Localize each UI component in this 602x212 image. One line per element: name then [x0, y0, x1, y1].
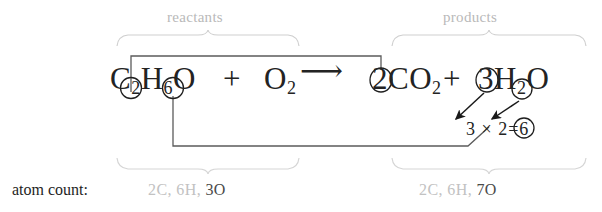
products-brace [392, 30, 586, 46]
oxygen-subscript: 2 [287, 78, 297, 98]
atom-count-products: 2C, 6H, 7O [419, 181, 497, 199]
product-water: 3H2O [478, 61, 549, 99]
annotation-overlay [0, 0, 602, 212]
h2o-subscript: 2 [517, 78, 527, 98]
plus-sign-reactants: + [223, 61, 241, 97]
products-carbon-count: 2C, [419, 181, 443, 198]
math-equals-symbol: = [508, 119, 519, 139]
ethanol-c: C [110, 61, 131, 96]
ethanol-h-subscript: 6 [164, 78, 174, 98]
hydrogen-math-expression: 3 × 2=6 [466, 119, 529, 140]
ethanol-c-subscript: 2 [131, 78, 141, 98]
co2-formula: CO [388, 61, 432, 96]
oxygen-o: O [264, 61, 287, 96]
products-hydrogen-count: 6H, [447, 181, 472, 198]
h2o-oxygen: O [526, 61, 549, 96]
product-carbon-dioxide: 2CO2 [372, 61, 442, 99]
math-result: 6 [519, 119, 529, 139]
reactant-oxygen: O2 [264, 61, 296, 99]
products-oxygen-count: 7O [476, 181, 496, 198]
reactants-carbon-count: 2C, [148, 181, 172, 198]
connector-hydrogen-bottom [173, 96, 489, 146]
ethanol-h: H [141, 61, 164, 96]
math-operand-b: 2 [498, 119, 508, 139]
ethanol-o: O [173, 61, 196, 96]
atom-count-reactants: 2C, 6H, 3O [148, 181, 226, 199]
math-times-symbol: × [482, 119, 493, 139]
reactants-count-brace [117, 158, 299, 174]
arrow-from-subscript-2 [492, 101, 519, 119]
math-operand-a: 3 [466, 119, 476, 139]
reactants-brace [117, 30, 299, 46]
reactants-oxygen-count: 3O [205, 181, 225, 198]
figure-canvas: reactants products C2H6O [0, 0, 602, 212]
plus-sign-products: + [443, 61, 461, 97]
co2-coefficient: 2 [372, 61, 388, 96]
atom-count-label: atom count: [12, 181, 88, 199]
reactant-ethanol: C2H6O [110, 61, 196, 99]
co2-subscript: 2 [432, 78, 442, 98]
h2o-coefficient: 3 [478, 61, 494, 96]
h2o-formula: H [494, 61, 517, 96]
reaction-arrow: ⟶ [300, 53, 344, 88]
reactants-hydrogen-count: 6H, [176, 181, 201, 198]
products-count-brace [392, 158, 586, 174]
